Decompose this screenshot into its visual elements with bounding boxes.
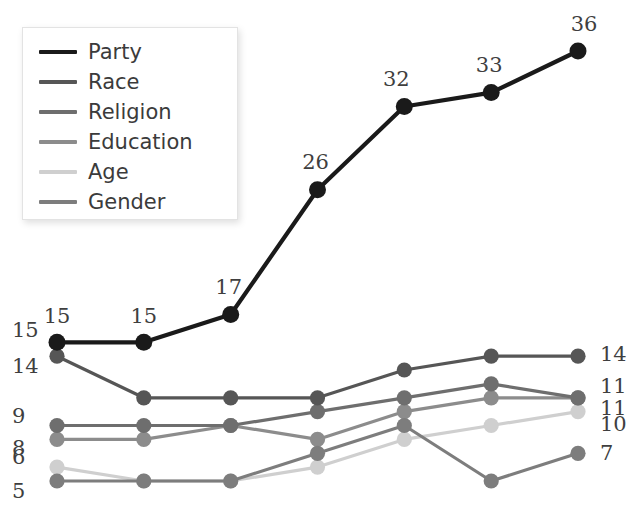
data-point [397, 404, 412, 419]
data-point [570, 446, 585, 461]
legend-item-race[interactable]: Race [39, 67, 237, 97]
data-point [397, 418, 412, 433]
right-value-label-age: 10 [600, 412, 627, 436]
data-point [570, 390, 585, 405]
data-point [570, 349, 585, 364]
right-value-label-religion: 11 [600, 374, 627, 398]
data-point [396, 98, 413, 115]
line-chart: Party Race Religion Education Age Gender… [0, 0, 640, 522]
point-label: 15 [130, 304, 157, 328]
legend-item-education[interactable]: Education [39, 127, 237, 157]
data-point [310, 390, 325, 405]
point-label: 36 [571, 12, 598, 36]
data-point [310, 432, 325, 447]
legend-label-religion: Religion [88, 102, 172, 123]
legend-swatch-gender [39, 200, 77, 204]
data-point [310, 460, 325, 475]
legend-item-age[interactable]: Age [39, 157, 237, 187]
left-value-label-party: 15 [12, 318, 39, 342]
point-label: 26 [302, 150, 329, 174]
data-point [484, 376, 499, 391]
data-point [397, 432, 412, 447]
right-value-label-race: 14 [600, 342, 627, 366]
right-value-label-gender: 7 [600, 441, 613, 465]
data-point [49, 418, 64, 433]
legend-item-party[interactable]: Party [39, 37, 237, 67]
data-point [136, 473, 151, 488]
data-point [223, 390, 238, 405]
data-point [484, 390, 499, 405]
data-point [223, 473, 238, 488]
data-point [484, 473, 499, 488]
point-label: 17 [215, 275, 242, 299]
data-point [135, 334, 152, 351]
data-point [310, 446, 325, 461]
data-point [49, 334, 66, 351]
data-point [483, 84, 500, 101]
data-point [310, 404, 325, 419]
data-point [49, 473, 64, 488]
data-point [397, 362, 412, 377]
data-point [222, 306, 239, 323]
chart-legend: Party Race Religion Education Age Gender [22, 27, 238, 220]
data-point [309, 181, 326, 198]
legend-label-gender: Gender [88, 192, 165, 213]
legend-item-gender[interactable]: Gender [39, 187, 237, 217]
left-value-label-race: 14 [12, 354, 39, 378]
point-label: 15 [44, 304, 71, 328]
left-value-label-religion: 9 [12, 404, 25, 428]
data-point [484, 349, 499, 364]
legend-label-party: Party [88, 42, 142, 63]
legend-label-age: Age [88, 162, 129, 183]
left-value-label-gender: 5 [12, 479, 25, 503]
legend-item-religion[interactable]: Religion [39, 97, 237, 127]
legend-swatch-party [39, 50, 77, 54]
data-point [223, 418, 238, 433]
data-point [49, 432, 64, 447]
point-label: 33 [476, 53, 503, 77]
legend-label-education: Education [88, 132, 193, 153]
data-point [49, 349, 64, 364]
legend-swatch-religion [39, 110, 77, 114]
legend-swatch-age [39, 170, 77, 174]
legend-label-race: Race [88, 72, 139, 93]
data-point [136, 390, 151, 405]
data-point [136, 432, 151, 447]
legend-swatch-education [39, 140, 77, 144]
legend-swatch-race [39, 80, 77, 84]
data-point [570, 43, 587, 60]
data-point [570, 404, 585, 419]
left-value-label-age: 6 [12, 445, 25, 469]
data-point [484, 418, 499, 433]
data-point [49, 460, 64, 475]
data-point [136, 418, 151, 433]
data-point [397, 390, 412, 405]
point-label: 32 [383, 67, 410, 91]
